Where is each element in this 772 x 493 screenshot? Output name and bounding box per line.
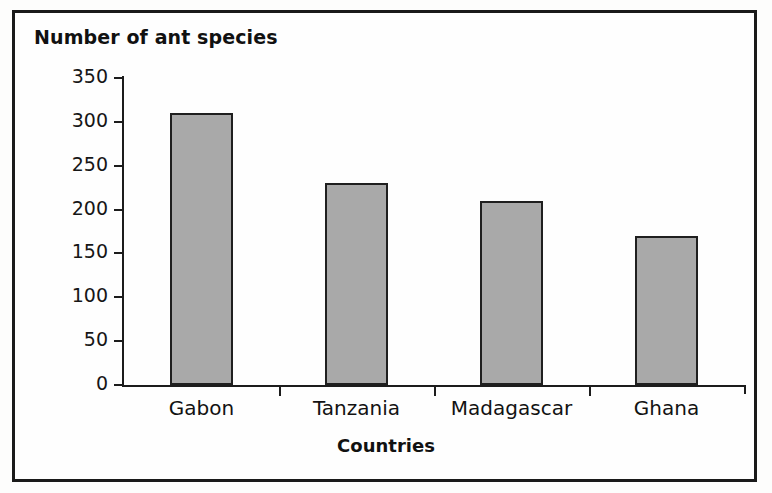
bar [325,183,388,385]
y-tick-mark [114,121,122,123]
bar-chart-figure: Number of ant species 350300250200150100… [0,0,772,493]
x-separator-tick [434,387,436,396]
y-tick-mark [114,252,122,254]
x-axis-title: Countries [0,435,772,456]
y-tick-mark [114,77,122,79]
y-tick-label: 200 [46,197,108,219]
y-tick-label: 0 [46,372,108,394]
category-label: Gabon [124,396,279,420]
y-tick-label: 350 [46,65,108,87]
y-tick-mark [114,165,122,167]
y-tick-mark [114,296,122,298]
x-separator-tick [589,387,591,396]
y-tick-mark [114,209,122,211]
y-axis-line [122,76,124,387]
y-tick-mark [114,340,122,342]
category-label: Tanzania [279,396,434,420]
category-label: Ghana [589,396,744,420]
category-label: Madagascar [434,396,589,420]
plot-area: 350300250200150100500 GabonTanzaniaMadag… [0,0,772,493]
x-axis-end-cap [744,385,746,394]
bar [170,113,233,385]
y-tick-label: 50 [46,328,108,350]
x-separator-tick [279,387,281,396]
y-tick-label: 300 [46,109,108,131]
bar [635,236,698,385]
y-tick-label: 100 [46,284,108,306]
y-tick-label: 150 [46,240,108,262]
bar [480,201,543,385]
y-tick-mark [114,384,122,386]
y-tick-label: 250 [46,153,108,175]
